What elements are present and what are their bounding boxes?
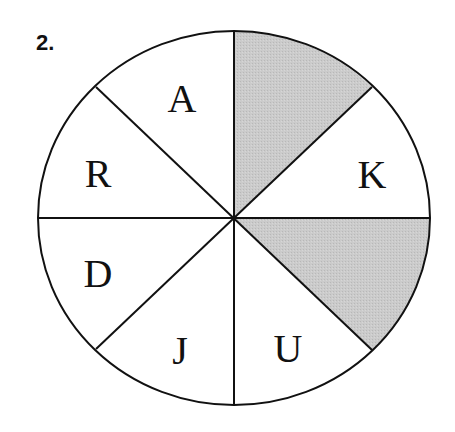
- segment-letter-u: U: [274, 326, 303, 371]
- segment-letter-k: K: [358, 152, 387, 197]
- segment-letter-d: D: [84, 251, 113, 296]
- shaded-sector-top-right: [234, 31, 372, 218]
- segment-letter-a: A: [168, 76, 197, 121]
- segment-letter-j: J: [172, 328, 188, 373]
- segment-letter-r: R: [85, 151, 112, 196]
- shaded-sector-right-lower: [234, 218, 430, 350]
- sector-circle-diagram: A R D J U K: [0, 0, 455, 432]
